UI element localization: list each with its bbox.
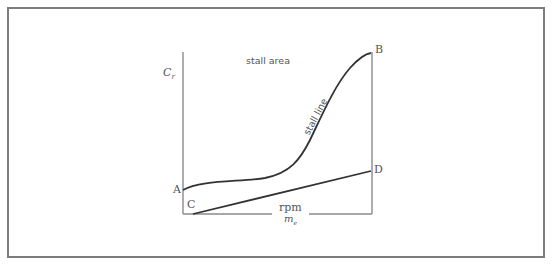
x-axis-label-me: me	[284, 214, 297, 226]
stall-diagram	[0, 0, 554, 266]
point-c-label: C	[187, 199, 195, 210]
point-d-label: D	[374, 164, 383, 175]
stall-line-curve	[183, 53, 371, 190]
point-b-label: B	[375, 44, 383, 55]
y-axis-label: Cr	[163, 67, 175, 81]
point-a-label: A	[173, 184, 181, 195]
stall-area-label: stall area	[246, 56, 290, 66]
x-axis-label-rpm: rpm	[279, 202, 302, 213]
